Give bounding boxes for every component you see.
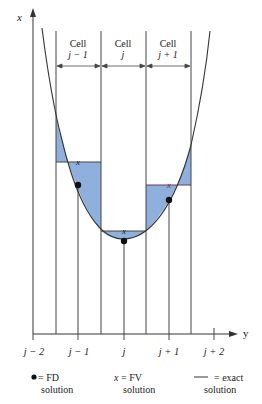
legend-exact-sub: solution [204,384,236,395]
tick-jp2: j + 2 [202,346,225,357]
cell-label-j-title: Cell [115,38,132,49]
x-axis-arrow-icon [30,8,36,17]
tick-jm2: j − 2 [22,346,45,357]
fv-mark-jm1: x [75,157,80,167]
error-shading [56,117,191,240]
fv-mark-jp1: x [166,180,171,190]
cell-label-j-index: j [120,49,125,60]
fv-x-icon: x [113,372,119,383]
legend-fd: = FD solution [31,372,73,395]
legend-exact: = exact solution [194,372,243,395]
exact-solution-curve [42,28,210,239]
legend-fd-sub: solution [41,384,73,395]
tick-jm1: j − 1 [67,346,90,357]
y-axis-label: y [243,327,249,339]
cell-label-jm1-title: Cell [70,38,87,49]
legend-fv-sub: solution [123,384,155,395]
legend-fv-text: = FV [121,372,143,383]
cell-width-arrows [57,64,190,68]
cell-label-jm1-index: j − 1 [66,49,88,60]
legend-exact-text: = exact [214,372,243,383]
cell-label-jp1-title: Cell [160,38,177,49]
tick-j: j [121,346,126,357]
legend-fv: x = FV solution [113,372,155,395]
x-axis-label: x [16,11,22,23]
cell-labels: Cell j − 1 Cell j Cell j + 1 [66,38,178,60]
tick-labels: j − 2 j − 1 j j + 1 j + 2 [22,346,225,357]
fv-mark-j: x [121,226,126,236]
cell-label-jp1-index: j + 1 [156,49,178,60]
fd-dot-icon [31,374,36,379]
node-lines [33,185,214,340]
tick-jp1: j + 1 [157,346,180,357]
legend: = FD solution x = FV solution = exact so… [31,372,243,395]
y-axis-arrow-icon [229,331,238,337]
fd-dot-jm1 [75,182,81,188]
legend-fd-text: = FD [38,372,59,383]
fd-vs-fv-diagram: x y Cell j − 1 Cell j Cell j + 1 [0,0,262,404]
fd-dot-jp1 [166,197,172,203]
fd-dot-j [121,238,127,244]
